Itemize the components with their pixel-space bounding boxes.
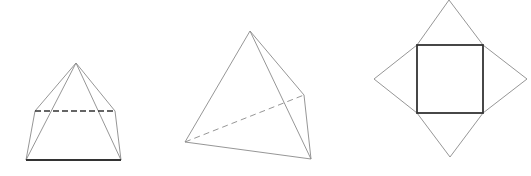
tetrahedron-figure (185, 31, 311, 159)
edge-apex-back-right (76, 63, 115, 111)
net-right-triangle (483, 45, 527, 113)
net-left-triangle (374, 45, 417, 113)
net-square-base (417, 45, 483, 113)
edge-apex-left (185, 31, 250, 142)
edge-apex-back-left (35, 63, 76, 111)
geometry-diagram (0, 0, 531, 176)
edge-left-side (26, 111, 35, 160)
square-pyramid-figure (26, 63, 121, 160)
edge-base-right (304, 95, 311, 159)
edge-apex-front-right (250, 31, 311, 159)
net-top-triangle (417, 0, 483, 45)
net-bottom-triangle (417, 113, 483, 157)
hidden-base-edge (185, 95, 304, 142)
edge-base-front (185, 142, 311, 159)
pyramid-net-figure (374, 0, 527, 157)
edge-apex-back-right (250, 31, 304, 95)
edge-apex-front-left (26, 63, 76, 160)
